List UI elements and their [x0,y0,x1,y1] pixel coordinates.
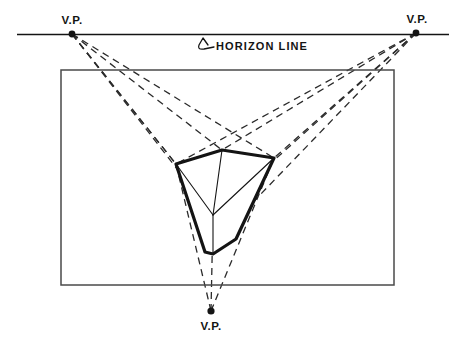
perspective-diagram: V.P. V.P. V.P. HORIZON LINE [0,0,458,343]
vanishing-point-left-label: V.P. [61,14,82,26]
vanishing-point-bottom-label: V.P. [200,320,221,332]
vp-left-dot [69,31,76,38]
vp-right-dot [413,30,420,37]
horizon-line-label: HORIZON LINE [216,40,308,52]
vp-bottom-dot [207,307,214,314]
vanishing-point-right-label: V.P. [406,13,427,25]
perspective-drawing-canvas: V.P. V.P. V.P. HORIZON LINE [0,0,458,343]
